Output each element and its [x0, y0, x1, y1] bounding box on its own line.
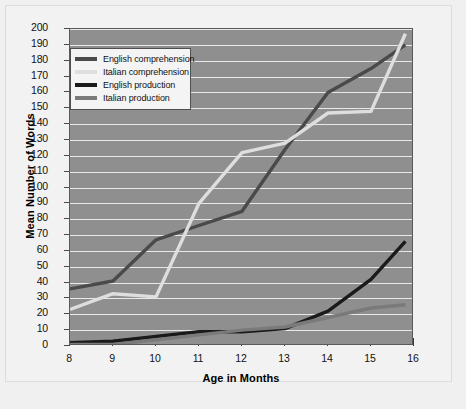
y-tick-label: 120 — [8, 148, 48, 160]
x-tick-label: 15 — [355, 352, 385, 364]
y-tick-label: 140 — [8, 116, 48, 128]
legend-item: Italian comprehension — [75, 66, 185, 78]
y-tick-label: 90 — [8, 195, 48, 207]
y-tick-label: 170 — [8, 69, 48, 81]
x-tick-label: 16 — [398, 352, 428, 364]
x-tick-label: 12 — [226, 352, 256, 364]
legend-label: Italian comprehension — [103, 67, 189, 77]
y-tick-label: 60 — [8, 243, 48, 255]
figure-container: Mean Number of Words Age in Months 01020… — [0, 0, 466, 409]
legend-label: English production — [103, 80, 175, 90]
legend-label: English comprehension — [103, 54, 194, 64]
y-tick-label: 100 — [8, 180, 48, 192]
y-tick-label: 20 — [8, 306, 48, 318]
y-tick-label: 180 — [8, 53, 48, 65]
y-tick-label: 80 — [8, 211, 48, 223]
y-tick-label: 130 — [8, 132, 48, 144]
x-tick-label: 11 — [183, 352, 213, 364]
x-tick-label: 9 — [97, 352, 127, 364]
x-tick-label: 8 — [54, 352, 84, 364]
y-tick-label: 150 — [8, 100, 48, 112]
x-tick-label: 14 — [312, 352, 342, 364]
y-tick-label: 160 — [8, 84, 48, 96]
legend-swatch — [75, 57, 97, 61]
legend-label: Italian production — [103, 93, 170, 103]
x-tick-label: 10 — [140, 352, 170, 364]
legend-swatch — [75, 83, 97, 87]
y-tick-label: 190 — [8, 37, 48, 49]
y-tick-label: 0 — [8, 338, 48, 350]
chart-legend: English comprehensionItalian comprehensi… — [70, 48, 191, 110]
x-axis-title: Age in Months — [69, 372, 413, 384]
legend-swatch — [75, 96, 97, 100]
x-tick-label: 13 — [269, 352, 299, 364]
series-line — [70, 305, 405, 345]
legend-item: English production — [75, 79, 185, 91]
y-tick-label: 10 — [8, 322, 48, 334]
y-tick-label: 110 — [8, 164, 48, 176]
y-tick-label: 50 — [8, 259, 48, 271]
x-tick-mark — [413, 338, 414, 346]
legend-item: English comprehension — [75, 53, 185, 65]
y-tick-label: 200 — [8, 21, 48, 33]
y-tick-label: 40 — [8, 275, 48, 287]
y-tick-label: 30 — [8, 290, 48, 302]
series-line — [70, 241, 405, 342]
legend-swatch — [75, 70, 97, 74]
legend-item: Italian production — [75, 92, 185, 104]
y-tick-label: 70 — [8, 227, 48, 239]
